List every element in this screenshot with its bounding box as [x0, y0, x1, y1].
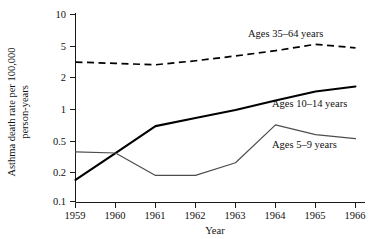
x-tick-label: 1966	[345, 210, 366, 221]
x-tick-marks	[76, 203, 356, 209]
chart-plot-area: 10 5 2 1 0.5 0.2 0.1 1959 1960 1961 1962…	[0, 0, 380, 239]
y-tick-label: 0.2	[53, 167, 66, 178]
x-tick-label: 1964	[265, 210, 287, 221]
y-tick-label: 10	[56, 9, 67, 20]
x-tick-label: 1961	[145, 210, 166, 221]
y-tick-label: 1	[61, 104, 66, 115]
y-axis-title-line1: Asthma death rate per 100,000	[6, 47, 17, 176]
series-line-ages-5-9	[76, 125, 356, 176]
y-tick-label: 0.5	[53, 136, 66, 147]
series-line-ages-35-64	[76, 44, 356, 64]
asthma-death-rate-chart: 10 5 2 1 0.5 0.2 0.1 1959 1960 1961 1962…	[0, 0, 380, 239]
series-annotation-ages-35-64: Ages 35–64 years	[248, 28, 323, 39]
y-tick-label: 0.1	[53, 196, 66, 207]
x-tick-label: 1959	[65, 210, 86, 221]
series-annotation-ages-5-9: Ages 5–9 years	[272, 139, 337, 150]
y-tick-label: 5	[61, 41, 66, 52]
y-tick-label: 2	[61, 72, 66, 83]
x-tick-label: 1962	[185, 210, 206, 221]
x-tick-label: 1960	[105, 210, 126, 221]
x-tick-label: 1963	[225, 210, 246, 221]
y-tick-labels: 10 5 2 1 0.5 0.2 0.1	[53, 9, 66, 207]
x-tick-label: 1965	[305, 210, 326, 221]
y-tick-marks	[70, 15, 76, 202]
x-axis-title: Year	[205, 225, 225, 236]
y-axis-title-line2: person-years	[19, 85, 30, 139]
x-tick-labels: 1959 1960 1961 1962 1963 1964 1965 1966	[65, 210, 366, 221]
series-annotation-ages-10-14: Ages 10–14 years	[272, 98, 347, 109]
